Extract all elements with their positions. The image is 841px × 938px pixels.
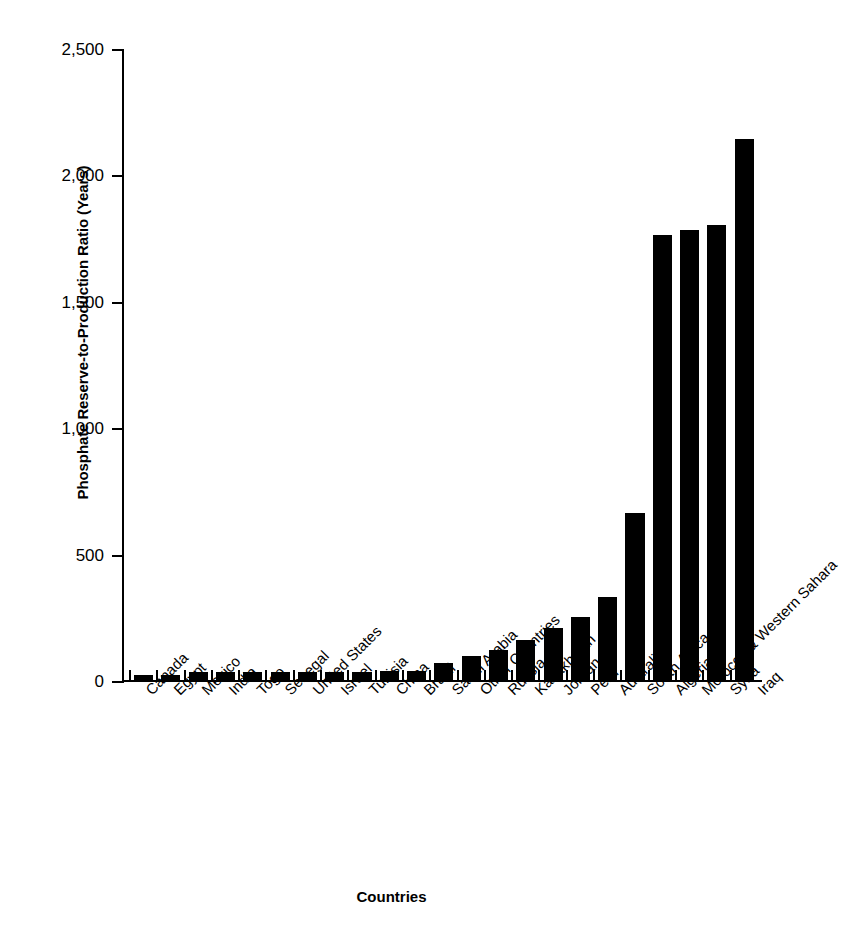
bar-slot — [157, 50, 184, 680]
bar-slot — [621, 50, 648, 680]
y-axis-tick: 0 — [112, 681, 124, 683]
bar-slot — [376, 50, 403, 680]
bar-slot — [485, 50, 512, 680]
bar-series — [124, 50, 762, 680]
bar-slot — [539, 50, 566, 680]
y-axis-tick-label: 2,500 — [61, 40, 104, 60]
x-axis-tick-labels: CanadaEgyptMexicoIndiaTogoSenegalUnited … — [122, 686, 762, 886]
y-axis-tick-label: 1,500 — [61, 293, 104, 313]
bar-slot — [458, 50, 485, 680]
bar-slot — [676, 50, 703, 680]
bar[interactable] — [680, 230, 699, 680]
bar[interactable] — [707, 225, 726, 680]
bar-slot — [348, 50, 375, 680]
bar-slot — [649, 50, 676, 680]
bar-slot — [703, 50, 730, 680]
bar-slot — [594, 50, 621, 680]
y-axis-tick: 500 — [112, 555, 124, 557]
bar-slot — [731, 50, 758, 680]
bar-slot — [403, 50, 430, 680]
y-axis-tick-label: 500 — [76, 546, 104, 566]
bar[interactable] — [625, 513, 644, 680]
y-axis-tick-label: 2,000 — [61, 166, 104, 186]
x-axis-tick — [129, 670, 131, 680]
bar-slot — [266, 50, 293, 680]
bar-slot — [239, 50, 266, 680]
y-axis-tick: 1,000 — [112, 428, 124, 430]
bar-slot — [430, 50, 457, 680]
y-axis-tick-label: 1,000 — [61, 419, 104, 439]
x-axis-title: Countries — [0, 888, 783, 905]
bar-slot — [130, 50, 157, 680]
bar-slot — [567, 50, 594, 680]
y-axis-tick: 1,500 — [112, 302, 124, 304]
bar-slot — [294, 50, 321, 680]
bar[interactable] — [653, 235, 672, 680]
bar[interactable] — [735, 139, 754, 680]
y-axis-tick: 2,000 — [112, 175, 124, 177]
bar-slot — [212, 50, 239, 680]
bar-slot — [185, 50, 212, 680]
y-axis-tick-label: 0 — [95, 672, 104, 692]
bar-slot — [512, 50, 539, 680]
y-axis-tick: 2,500 — [112, 49, 124, 51]
plot-area: 05001,0001,5002,0002,500 — [122, 50, 762, 682]
bar-slot — [321, 50, 348, 680]
